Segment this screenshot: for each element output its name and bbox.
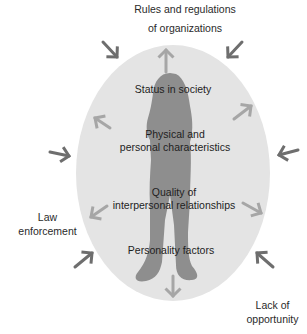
label-interpersonal-relationships: Quality of interpersonal relationships <box>113 186 236 212</box>
label-personality-factors: Personality factors <box>128 244 214 257</box>
inward-arrow-left-icon <box>50 152 69 156</box>
label-status-in-society: Status in society <box>135 83 211 96</box>
diagram-canvas <box>0 0 307 334</box>
inward-arrow-top-left-icon <box>103 42 117 57</box>
label-law-enforcement: Law enforcement <box>5 210 90 238</box>
inward-arrow-bottom-right-icon <box>257 253 273 267</box>
label-lack-of-opportunity: Lack of opportunity <box>240 298 305 326</box>
inward-arrow-bottom-left-icon <box>75 253 92 267</box>
label-physical-personal-characteristics: Physical and personal characteristics <box>120 128 230 154</box>
inward-arrow-right-icon <box>279 150 298 155</box>
label-rules-and-regulations: Rules and regulations of organizations <box>120 0 250 38</box>
inward-arrow-top-right-icon <box>228 42 242 57</box>
